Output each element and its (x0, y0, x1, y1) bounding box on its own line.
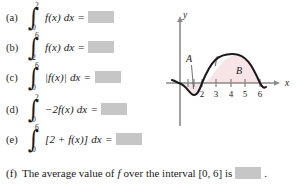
part-a-answer-field[interactable] (88, 11, 114, 23)
part-e: (e) 6 ∫ 0 [2 + f(x)] dx = (6, 126, 142, 152)
part-a-dx: dx (64, 11, 74, 23)
part-c-equals: = (84, 71, 90, 83)
x-axis-arrow-icon (274, 80, 280, 86)
part-d-equals: = (91, 103, 97, 115)
part-d-dx: dx (77, 103, 87, 115)
part-e-equals: = (106, 133, 112, 145)
part-b-integrand: f(x) (45, 41, 61, 53)
part-b-integral-sign: 6 ∫ 2 (26, 34, 42, 60)
part-d-lower-limit: 0 (32, 116, 36, 124)
part-e-integral-sign: 6 ∫ 0 (26, 126, 42, 152)
region-b-label: B (236, 65, 242, 76)
exercise-page: (a) 2 ∫ 0 f(x) dx = (b) 6 ∫ 2 f(x) dx = (0, 0, 299, 192)
part-d-integral-sign: 2 ∫ 0 (26, 96, 42, 122)
part-b-dx: dx (64, 41, 74, 53)
part-f-function-symbol: f (118, 167, 121, 179)
x-tick-label-3: 3 (214, 89, 219, 99)
part-b-letter: (b) (6, 42, 26, 53)
part-c-lower-limit: 0 (32, 84, 36, 92)
part-d-integrand: −2f(x) (45, 103, 74, 115)
part-c: (c) 6 ∫ 0 |f(x)| dx = (6, 64, 121, 90)
part-a-equals: = (78, 11, 84, 23)
integral-parts-list: (a) 2 ∫ 0 f(x) dx = (b) 6 ∫ 2 f(x) dx = (0, 0, 160, 160)
x-tick-label-6: 6 (258, 89, 263, 99)
part-c-letter: (c) (6, 72, 26, 83)
part-a-lower-limit: 0 (32, 24, 36, 32)
part-d-answer-field[interactable] (101, 103, 127, 115)
part-b-lower-limit: 2 (32, 54, 36, 62)
part-e-dx: dx (91, 133, 101, 145)
part-f: (f) The average value of f over the inte… (6, 167, 267, 179)
x-tick-label-5: 5 (243, 89, 248, 99)
part-e-lower-limit: 0 (32, 146, 36, 154)
part-b-answer-field[interactable] (88, 41, 114, 53)
part-c-dx: dx (70, 71, 80, 83)
x-tick-label-2: 2 (200, 89, 205, 99)
part-e-integrand: [2 + f(x)] (45, 133, 88, 145)
part-d-letter: (d) (6, 104, 26, 115)
function-graph-figure: y x A B f 2 3 4 5 6 (160, 8, 299, 138)
part-e-answer-field[interactable] (116, 133, 142, 145)
part-b-equals: = (78, 41, 84, 53)
region-a-label: A (185, 53, 193, 64)
x-tick-label-4: 4 (229, 89, 234, 99)
part-f-text-middle: over the interval [0, 6] is (124, 167, 233, 179)
part-f-letter: (f) (6, 167, 17, 179)
part-b: (b) 6 ∫ 2 f(x) dx = (6, 34, 114, 60)
part-f-text-before: The average value of (22, 167, 115, 179)
region-b-shading (202, 55, 260, 83)
y-axis-label: y (182, 10, 188, 20)
part-c-integrand: |f(x)| (45, 71, 67, 83)
part-a: (a) 2 ∫ 0 f(x) dx = (6, 4, 114, 30)
part-a-integrand: f(x) (45, 11, 61, 23)
part-f-answer-field[interactable] (235, 167, 261, 179)
part-d: (d) 2 ∫ 0 −2f(x) dx = (6, 96, 127, 122)
part-a-letter: (a) (6, 12, 26, 23)
x-axis-label: x (284, 78, 290, 88)
part-f-text-after: . (264, 167, 267, 179)
part-a-integral-sign: 2 ∫ 0 (26, 4, 42, 30)
part-e-letter: (e) (6, 134, 26, 145)
part-c-answer-field[interactable] (95, 71, 121, 83)
part-c-integral-sign: 6 ∫ 0 (26, 64, 42, 90)
